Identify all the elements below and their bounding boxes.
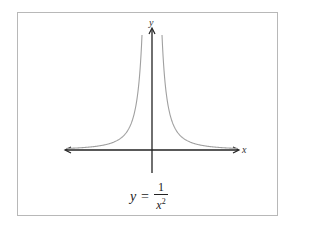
x-axis-label: x (241, 144, 247, 155)
formula-den-exponent: 2 (162, 197, 166, 206)
curve-left (66, 35, 142, 148)
formula-fraction: 1 x2 (154, 181, 168, 212)
formula-denominator: x2 (154, 195, 168, 212)
formula-lhs: y (130, 189, 136, 205)
formula-equals: = (141, 189, 149, 205)
curve-right (162, 35, 238, 148)
y-axis (149, 28, 155, 173)
function-formula: y = 1 x2 (118, 183, 178, 213)
y-axis-label: y (148, 17, 154, 28)
formula-numerator: 1 (154, 181, 168, 195)
